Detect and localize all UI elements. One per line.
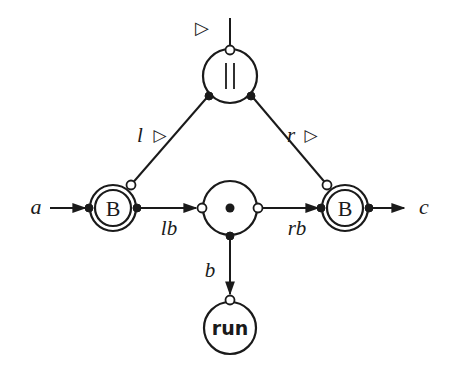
port-par-top (226, 46, 235, 55)
node-run: run (204, 302, 256, 354)
port-right-b-in (317, 204, 325, 212)
port-run-top (226, 296, 235, 305)
output-c-label: c (419, 194, 429, 219)
port-left-b-in (85, 204, 93, 212)
right-marker-label: ▷ (304, 126, 318, 145)
port-par-left (205, 92, 213, 100)
node-left-b-label: B (106, 196, 121, 221)
top-marker-label: ▷ (195, 18, 209, 38)
center-dot-icon (226, 204, 235, 213)
port-center-bottom (226, 232, 234, 240)
port-left-b-out (133, 204, 141, 212)
diagram-canvas: B B run ▷ l ▷ r ▷ a c lb rb b (0, 0, 450, 384)
node-center (203, 181, 257, 235)
node-right-b: B (322, 185, 368, 231)
left-marker-label: ▷ (153, 126, 167, 145)
node-right-b-label: B (338, 196, 353, 221)
right-link-label: r (287, 123, 296, 147)
lb-label: lb (161, 216, 177, 240)
rb-label: rb (288, 216, 307, 240)
left-link-label: l (137, 123, 143, 147)
node-left-b: B (90, 185, 136, 231)
node-run-label: run (212, 317, 248, 339)
port-par-right (247, 92, 255, 100)
input-a-label: a (31, 194, 42, 219)
port-left-b-top (127, 181, 136, 190)
port-right-b-out (365, 204, 373, 212)
b-label: b (205, 258, 216, 282)
port-center-right (254, 204, 263, 213)
port-right-b-top (323, 181, 332, 190)
port-center-left (198, 204, 207, 213)
network-diagram: B B run ▷ l ▷ r ▷ a c lb rb b (0, 0, 450, 384)
